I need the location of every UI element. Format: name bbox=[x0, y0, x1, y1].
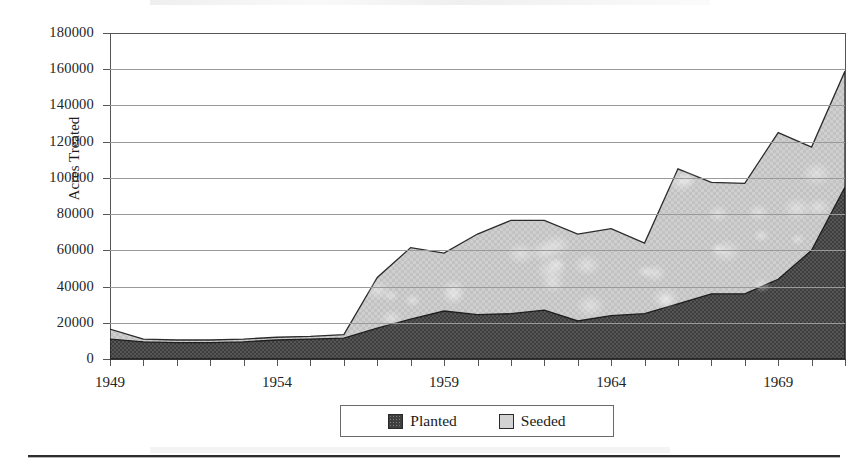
scan-blotch bbox=[383, 290, 399, 302]
stacked-area-chart: Acres Treated bbox=[0, 0, 868, 445]
x-tick-mark bbox=[645, 360, 646, 366]
y-tick-mark bbox=[103, 69, 110, 70]
y-tick-mark bbox=[103, 250, 110, 251]
x-tick-mark bbox=[544, 360, 545, 366]
gridline bbox=[110, 287, 845, 288]
x-tick-mark bbox=[711, 360, 712, 366]
scan-blotch bbox=[442, 287, 465, 305]
x-tick-mark bbox=[778, 360, 779, 366]
gridline bbox=[110, 178, 845, 179]
footer-rule bbox=[28, 455, 840, 457]
gridline bbox=[110, 142, 845, 143]
x-tick-label: 1964 bbox=[581, 374, 641, 390]
y-tick-mark bbox=[103, 214, 110, 215]
area-series-svg bbox=[110, 33, 845, 359]
x-tick-mark bbox=[344, 360, 345, 366]
y-tick-label: 60000 bbox=[8, 242, 94, 256]
scan-blotch bbox=[801, 161, 833, 186]
scan-blotch bbox=[380, 309, 402, 327]
x-tick-mark bbox=[377, 360, 378, 366]
y-tick-label: 120000 bbox=[8, 134, 94, 148]
plot-area bbox=[110, 33, 845, 359]
scan-blotch bbox=[753, 278, 772, 293]
x-tick-mark bbox=[277, 360, 278, 366]
scan-blotch bbox=[753, 229, 770, 243]
x-tick-label: 1959 bbox=[414, 374, 474, 390]
y-tick-mark bbox=[103, 105, 110, 106]
x-tick-mark bbox=[511, 360, 512, 366]
scan-blotch bbox=[658, 294, 675, 308]
y-tick-label: 0 bbox=[8, 351, 94, 365]
gridline bbox=[110, 105, 845, 106]
x-tick-mark bbox=[411, 360, 412, 366]
scan-blotch bbox=[782, 196, 812, 220]
gridline bbox=[110, 69, 845, 70]
x-tick-mark bbox=[310, 360, 311, 366]
x-tick-mark bbox=[143, 360, 144, 366]
x-tick-mark bbox=[812, 360, 813, 366]
gridline bbox=[110, 250, 845, 251]
y-tick-mark bbox=[103, 359, 110, 360]
page-scan-artifact-bottom bbox=[150, 447, 670, 453]
scan-blotch bbox=[573, 254, 601, 277]
legend-item-seeded: Seeded bbox=[499, 412, 566, 430]
x-tick-mark bbox=[745, 360, 746, 366]
x-tick-mark bbox=[845, 360, 846, 366]
chart-legend: Planted Seeded bbox=[340, 405, 614, 437]
y-tick-label: 80000 bbox=[8, 206, 94, 220]
x-tick-mark bbox=[478, 360, 479, 366]
scan-blotch bbox=[541, 274, 566, 294]
legend-label-planted: Planted bbox=[410, 412, 457, 430]
scan-blotch bbox=[575, 294, 605, 318]
x-tick-mark bbox=[177, 360, 178, 366]
y-tick-label: 40000 bbox=[8, 279, 94, 293]
scan-blotch bbox=[643, 264, 666, 283]
y-tick-mark bbox=[103, 287, 110, 288]
y-tick-label: 20000 bbox=[8, 315, 94, 329]
x-tick-label: 1954 bbox=[247, 374, 307, 390]
x-tick-label: 1969 bbox=[748, 374, 808, 390]
scan-blotch bbox=[711, 243, 726, 255]
x-tick-mark bbox=[244, 360, 245, 366]
scan-blotch bbox=[404, 293, 422, 307]
legend-item-planted: Planted bbox=[388, 412, 457, 430]
scan-blotch bbox=[747, 203, 769, 221]
x-tick-mark bbox=[578, 360, 579, 366]
y-tick-label: 140000 bbox=[8, 97, 94, 111]
x-tick-mark bbox=[444, 360, 445, 366]
x-tick-mark bbox=[678, 360, 679, 366]
x-tick-label: 1949 bbox=[80, 374, 140, 390]
y-tick-mark bbox=[103, 33, 110, 34]
x-tick-mark bbox=[210, 360, 211, 366]
scan-blotch bbox=[790, 233, 805, 245]
y-tick-label: 100000 bbox=[8, 170, 94, 184]
y-tick-label: 160000 bbox=[8, 61, 94, 75]
planted-swatch-icon bbox=[388, 414, 403, 429]
plot-border-right bbox=[845, 33, 846, 360]
gridline bbox=[110, 214, 845, 215]
scan-blotch bbox=[676, 170, 698, 187]
x-tick-mark bbox=[611, 360, 612, 366]
y-tick-mark bbox=[103, 178, 110, 179]
x-tick-mark bbox=[110, 360, 111, 366]
y-tick-mark bbox=[103, 323, 110, 324]
y-tick-label: 180000 bbox=[8, 25, 94, 39]
seeded-swatch-icon bbox=[499, 414, 514, 429]
legend-label-seeded: Seeded bbox=[521, 412, 566, 430]
y-tick-mark bbox=[103, 142, 110, 143]
gridline bbox=[110, 323, 845, 324]
